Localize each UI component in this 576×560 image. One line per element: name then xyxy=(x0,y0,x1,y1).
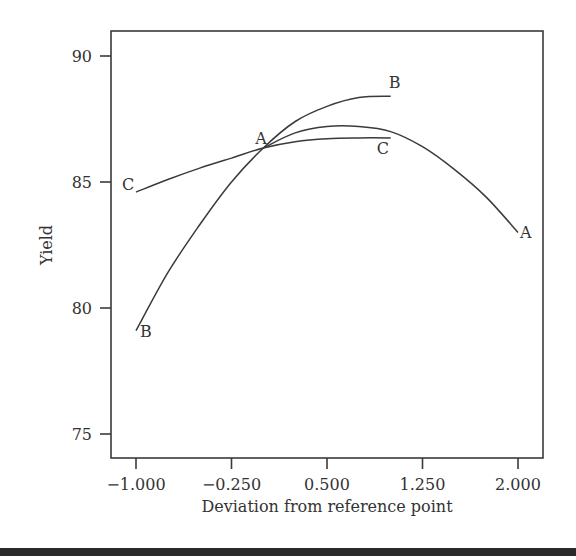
curve-label-c: C xyxy=(122,175,134,194)
series-layer: AABBCC xyxy=(122,73,532,340)
plot-frame xyxy=(111,31,543,458)
curve-a xyxy=(263,126,518,233)
y-tick-label: 75 xyxy=(72,425,92,444)
x-axis-title: Deviation from reference point xyxy=(201,497,453,516)
curve-label-c: C xyxy=(377,139,389,158)
curve-label-b: B xyxy=(389,73,401,92)
bottom-rule xyxy=(0,548,576,556)
chart-canvas: 75808590 −1.000−0.2500.5001.2502.000 AAB… xyxy=(0,0,576,560)
curve-label-b: B xyxy=(140,322,152,341)
x-tick-label: 1.250 xyxy=(400,475,446,494)
y-tick-label: 85 xyxy=(72,173,92,192)
y-axis-title: Yield xyxy=(37,225,56,266)
curve-label-a: A xyxy=(519,223,532,242)
x-tick-label: 2.000 xyxy=(495,475,541,494)
yield-chart: 75808590 −1.000−0.2500.5001.2502.000 AAB… xyxy=(0,0,576,560)
y-axis: 75808590 xyxy=(72,47,111,444)
x-tick-label: 0.500 xyxy=(304,475,350,494)
x-tick-label: −1.000 xyxy=(106,475,165,494)
x-tick-label: −0.250 xyxy=(202,475,261,494)
y-tick-label: 90 xyxy=(72,47,92,66)
x-axis: −1.000−0.2500.5001.2502.000 xyxy=(106,458,541,494)
y-tick-label: 80 xyxy=(72,299,92,318)
